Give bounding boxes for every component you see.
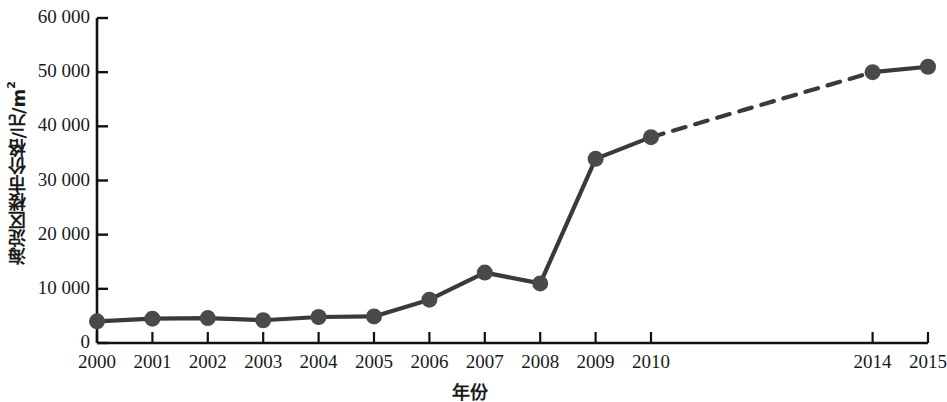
data-point-marker [865, 64, 881, 80]
x-axis-tick-label: 2004 [300, 352, 338, 371]
x-axis-title: 年份 [0, 378, 939, 402]
x-axis-tick-label: 2014 [854, 352, 892, 371]
x-axis-tick-label: 2015 [909, 352, 947, 371]
data-point-marker [477, 265, 493, 281]
x-axis-tick-label: 2003 [244, 352, 282, 371]
data-point-marker [532, 275, 548, 291]
data-point-marker [421, 292, 437, 308]
x-axis-tick-label: 2001 [133, 352, 171, 371]
data-markers [89, 59, 936, 330]
data-point-marker [200, 310, 216, 326]
data-point-marker [920, 59, 936, 75]
line-segment-dashed-2010-2014 [651, 72, 873, 137]
axes [97, 18, 928, 343]
x-axis-tick-label: 2010 [632, 352, 670, 371]
data-point-marker [588, 151, 604, 167]
x-axis-tick-label: 2006 [410, 352, 448, 371]
data-point-marker [89, 313, 105, 329]
x-axis-tick-label: 2009 [577, 352, 615, 371]
line-segment-solid-2000-2010 [97, 137, 651, 321]
data-point-marker [311, 309, 327, 325]
line-segment-solid-2014-2015 [873, 67, 928, 72]
x-axis-tick-label: 2008 [521, 352, 559, 371]
x-axis-tick-label: 2000 [78, 352, 116, 371]
data-point-marker [144, 311, 160, 327]
data-series [97, 67, 928, 322]
data-point-marker [643, 129, 659, 145]
x-axis-tick-label: 2005 [355, 352, 393, 371]
data-point-marker [366, 308, 382, 324]
x-axis-tick-label: 2002 [189, 352, 227, 371]
data-point-marker [255, 312, 271, 328]
x-axis-tick-label: 2007 [466, 352, 504, 371]
